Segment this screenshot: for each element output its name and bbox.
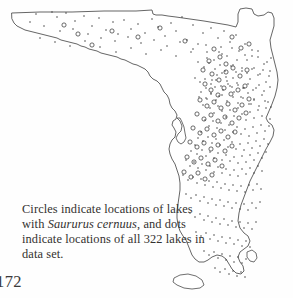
lake-dot [137, 23, 139, 25]
lake-dot [244, 128, 246, 130]
lake-dot [221, 53, 223, 55]
lake-dot [229, 174, 231, 176]
lake-dot [223, 30, 225, 32]
lake-dot [232, 77, 234, 79]
lake-dot [217, 152, 219, 154]
lake-dot [261, 170, 263, 172]
lake-dot [257, 74, 259, 76]
lake-dot [160, 49, 162, 51]
lake-dot [175, 30, 177, 32]
lake-dot [261, 115, 263, 117]
lake-dot [210, 93, 212, 95]
lake-dot [246, 59, 248, 61]
lake-dot [225, 259, 227, 261]
lake-dot [198, 96, 200, 98]
lake-dot [229, 160, 231, 162]
lake-dot [253, 117, 255, 119]
lake-dot [215, 79, 217, 81]
lake-dot [264, 100, 266, 102]
lake-dot [217, 105, 219, 107]
lake-dot [269, 70, 271, 72]
lake-dot [207, 202, 209, 204]
lake-dot [251, 49, 253, 51]
lake-dot [185, 193, 187, 195]
lake-dot [255, 207, 257, 209]
lake-dot [240, 271, 242, 273]
lake-dot [244, 43, 246, 45]
lake-dot [265, 81, 267, 83]
lake-dot [237, 175, 239, 177]
lake-dot [99, 46, 101, 48]
lake-dot [259, 201, 261, 203]
lake-dot [225, 242, 227, 244]
lake-dot [217, 37, 219, 39]
lake-dot [205, 97, 207, 99]
lake-dot [223, 218, 225, 220]
florida-key-island [173, 274, 204, 289]
lake-dot [203, 66, 205, 68]
lake-dot [72, 28, 74, 30]
lake-dot [249, 246, 251, 248]
lake-dot [227, 146, 229, 148]
lake-dot [224, 268, 226, 270]
lake-dot [56, 16, 58, 18]
lake-dot [207, 215, 209, 217]
lake-dot [268, 125, 270, 127]
lake-dot [145, 53, 147, 55]
lake-dot [182, 174, 184, 176]
lake-dot [221, 236, 223, 238]
caption-line-1: Circles indicate locations of [22, 202, 164, 216]
lake-dot [237, 239, 239, 241]
lake-dot [242, 97, 244, 99]
lake-dot [241, 168, 243, 170]
lake-dot [201, 149, 203, 151]
lake-dot [74, 20, 76, 22]
lake-dot [236, 190, 238, 192]
lake-dot [221, 159, 223, 161]
lake-dot [196, 153, 198, 155]
lake-dot [123, 19, 125, 21]
lake-dot [267, 143, 269, 145]
lake-dot [166, 45, 168, 47]
lake-dot [241, 262, 243, 264]
lake-dot [261, 94, 263, 96]
lake-dot [219, 223, 221, 225]
lake-dot [239, 208, 241, 210]
lake-dot [258, 84, 260, 86]
book-page: Circles indicate locations of lakes with… [0, 0, 293, 298]
lake-dot [245, 258, 247, 260]
lake-dot [237, 102, 239, 104]
lake-dot [221, 253, 223, 255]
lake-dot [238, 50, 240, 52]
lake-dot [225, 116, 227, 118]
lake-dot [270, 106, 272, 108]
lake-dot [210, 83, 212, 85]
lake-dot [257, 109, 259, 111]
caption-line-2-suffix: , [137, 217, 140, 231]
lake-dot [269, 86, 271, 88]
lake-dot [248, 135, 250, 137]
lake-dot [263, 63, 265, 65]
lake-dot [253, 172, 255, 174]
lake-dot [252, 189, 254, 191]
lake-dot [255, 140, 257, 142]
lake-dot [221, 72, 223, 74]
lake-dot [112, 21, 114, 23]
lake-dot [213, 112, 215, 114]
lake-dot [199, 81, 201, 83]
lake-dot [189, 165, 191, 167]
species-name: Saururus cernuus [48, 217, 137, 231]
lake-dot [236, 275, 238, 277]
lake-dot [237, 256, 239, 258]
lake-dot [232, 270, 234, 272]
lake-dot [217, 257, 219, 259]
lake-dot [151, 18, 153, 20]
lake-dot [262, 69, 264, 71]
lake-dot [251, 68, 253, 70]
lake-dot [233, 243, 235, 245]
lake-dot [243, 227, 245, 229]
lake-dot [59, 30, 61, 32]
lake-dot [114, 40, 116, 42]
lake-dot [243, 203, 245, 205]
lake-dot [190, 197, 192, 199]
